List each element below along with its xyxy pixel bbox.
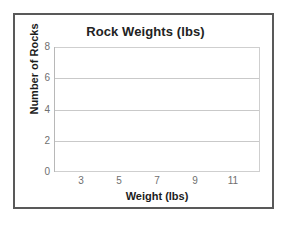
- x-tick-label: 11: [221, 175, 245, 186]
- gridline-y-2: [55, 141, 259, 142]
- x-axis-title: Weight (lbs): [54, 190, 260, 202]
- plot-area: [54, 47, 260, 172]
- y-axis-title: Number of Rocks: [28, 7, 40, 132]
- chart-title: Rock Weights (lbs): [15, 24, 276, 39]
- x-tick-label: 7: [145, 175, 169, 186]
- x-tick-label: 9: [183, 175, 207, 186]
- x-tick-label: 3: [69, 175, 93, 186]
- gridline-y-4: [55, 110, 259, 111]
- chart-frame: Rock Weights (lbs) 8 6 4 2 0 Number of R…: [13, 13, 274, 209]
- y-tick-label: 2: [24, 136, 50, 146]
- y-tick-label: 0: [24, 167, 50, 177]
- gridline-y-6: [55, 78, 259, 79]
- x-axis-tick-labels: 3 5 7 9 11: [54, 175, 260, 187]
- y-axis-line: [54, 47, 55, 172]
- x-tick-label: 5: [107, 175, 131, 186]
